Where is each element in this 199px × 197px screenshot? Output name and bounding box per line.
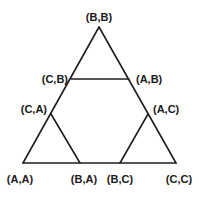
edge-ac-bc [120,114,148,163]
label-bottom-center-right: (B,C) [107,173,134,185]
edge-right-side [99,27,176,163]
label-bottom-left: (A,A) [7,173,34,185]
label-top: (B,B) [86,11,113,23]
label-bottom-right: (C,C) [166,173,193,185]
triangle-diagram: (B,B) (C,B) (A,B) (C,A) (A,C) (A,A) (B,A… [0,0,199,197]
label-bottom-center-left: (B,A) [71,173,98,185]
label-mid-left: (C,A) [21,103,48,115]
edge-left-side [23,27,99,163]
label-mid-right: (A,C) [153,103,180,115]
label-upper-left: (C,B) [42,73,69,85]
label-upper-right: (A,B) [136,73,163,85]
edge-ca-ba [51,114,80,163]
